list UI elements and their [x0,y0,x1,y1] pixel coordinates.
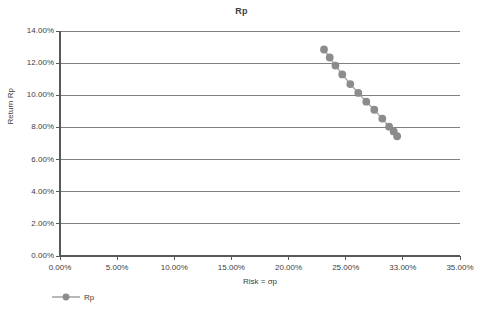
x-axis-tick-label: 5.00% [87,263,147,272]
chart-legend: Rp [52,292,94,302]
legend-item-label: Rp [84,293,94,302]
x-axis-tick-label: 0.00% [30,263,90,272]
x-axis-tick-label: 35.00% [430,263,483,272]
gridlines-group [60,31,460,224]
x-axis-tick-label: 20.00% [259,263,319,272]
data-point-marker [332,62,340,70]
x-axis-title: Risk = σp [60,277,460,286]
data-point-marker [393,132,401,140]
y-axis-tick-label: 10.00% [8,90,54,99]
chart-container: Rp Return Rp Risk = σp 0.00%2.00%4.00%6.… [0,0,483,322]
y-axis-tick-label: 4.00% [8,187,54,196]
data-series-group [320,46,401,141]
data-point-marker [320,46,328,54]
y-axis-tick-label: 8.00% [8,122,54,131]
axes-group [60,31,460,256]
y-axis-tick-label: 14.00% [8,26,54,35]
x-axis-tick-label: 10.00% [144,263,204,272]
y-axis-tick-label: 6.00% [8,155,54,164]
plot-area [0,0,483,322]
data-point-marker [362,98,370,106]
legend-marker-icon [52,292,80,302]
data-point-marker [326,54,334,62]
x-axis-tick-label: 15.00% [201,263,261,272]
y-axis-tick-label: 0.00% [8,251,54,260]
data-point-marker [378,115,386,123]
y-axis-tick-label: 2.00% [8,219,54,228]
data-point-marker [338,70,346,78]
x-axis-tick-label: 33.00% [373,263,433,272]
x-axis-tick-label: 25.00% [316,263,376,272]
tick-marks-group [56,31,460,260]
y-axis-tick-label: 12.00% [8,58,54,67]
data-point-marker [354,89,362,97]
data-point-marker [346,80,354,88]
data-point-marker [370,106,378,114]
